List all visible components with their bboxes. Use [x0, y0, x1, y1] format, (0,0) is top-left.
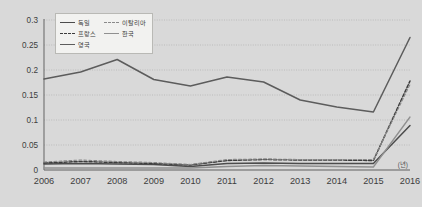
y-axis-tick-label: 0.3 — [27, 16, 39, 25]
y-axis-tick-label: 0 — [33, 166, 38, 175]
legend-label: 영국 — [78, 41, 90, 49]
x-axis-tick-label: 2014 — [327, 176, 347, 186]
chart-legend: 독일이탈리아프랑스한국영국 — [55, 13, 153, 54]
x-axis-tick-label: 2009 — [144, 176, 164, 186]
legend-item-이탈리아[interactable]: 이탈리아 — [104, 19, 148, 27]
y-axis-tick-label: 0.25 — [22, 41, 38, 50]
x-axis-tick-label: 2008 — [107, 176, 127, 186]
legend-row: 독일이탈리아 — [60, 17, 148, 28]
series-line-프랑스 — [44, 81, 410, 165]
x-axis-tick-label: 2010 — [180, 176, 200, 186]
x-axis-tick-label: 2016 — [400, 176, 420, 186]
x-axis-tick-label: 2011 — [217, 176, 237, 186]
y-axis-tick-label: 0.05 — [22, 141, 38, 150]
x-axis-tick-label: 2012 — [253, 176, 273, 186]
x-axis-tick-label: 2015 — [363, 176, 383, 186]
legend-item-독일[interactable]: 독일 — [60, 19, 104, 27]
legend-label: 한국 — [122, 30, 134, 38]
legend-label: 이탈리아 — [122, 19, 146, 27]
legend-item-영국[interactable]: 영국 — [60, 41, 109, 49]
series-line-이탈리아 — [44, 85, 410, 165]
legend-label: 프랑스 — [78, 30, 96, 38]
legend-row: 영국 — [60, 39, 148, 50]
line-chart: 00.050.10.150.20.250.3200620072008200920… — [0, 0, 422, 207]
y-axis-tick-label: 0.2 — [27, 66, 39, 75]
y-axis-tick-label: 0.15 — [22, 91, 38, 100]
x-axis-tick-label: 2007 — [70, 176, 90, 186]
legend-item-프랑스[interactable]: 프랑스 — [60, 30, 104, 38]
y-axis-tick-label: 0.1 — [27, 116, 39, 125]
legend-label: 독일 — [78, 19, 90, 27]
legend-item-한국[interactable]: 한국 — [104, 30, 148, 38]
x-axis-unit-label: (년) — [398, 160, 408, 169]
x-axis-tick-label: 2006 — [34, 176, 54, 186]
legend-row: 프랑스한국 — [60, 28, 148, 39]
x-axis-tick-label: 2013 — [290, 176, 310, 186]
